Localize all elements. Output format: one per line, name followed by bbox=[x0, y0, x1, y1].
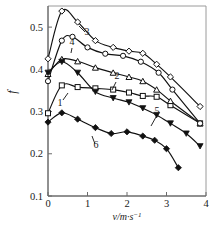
marker-series-1 bbox=[75, 85, 80, 90]
marker-series-1 bbox=[46, 111, 51, 116]
curve-label-3: 3 bbox=[85, 26, 90, 37]
leader-line-1 bbox=[63, 93, 68, 100]
marker-series-1 bbox=[154, 94, 159, 99]
marker-series-5 bbox=[126, 100, 132, 105]
marker-series-1 bbox=[140, 93, 145, 98]
marker-series-6 bbox=[140, 133, 146, 139]
y-tick-label: 0.3 bbox=[30, 106, 43, 117]
marker-series-5 bbox=[140, 106, 146, 111]
marker-series-3 bbox=[140, 50, 146, 56]
curve-label-1: 1 bbox=[58, 97, 63, 108]
y-tick-label: 0.2 bbox=[30, 148, 43, 159]
marker-series-4 bbox=[197, 121, 202, 126]
x-tick-label: 4 bbox=[203, 198, 209, 209]
chart-figure: 01234 0.10.20.30.40.5 123456 v/m·s−1 f bbox=[0, 0, 220, 236]
leader-line-4 bbox=[71, 48, 72, 53]
curve-label-2: 2 bbox=[115, 70, 120, 81]
x-axis-title: v/m·s−1 bbox=[112, 211, 141, 222]
x-axis-tick-labels: 01234 bbox=[45, 198, 209, 209]
leader-line-5 bbox=[151, 117, 156, 126]
y-axis-tick-labels: 0.10.20.30.40.5 bbox=[30, 22, 44, 202]
marker-series-3 bbox=[110, 44, 116, 50]
marker-series-4 bbox=[170, 87, 175, 92]
curve-label-5: 5 bbox=[155, 105, 160, 116]
curve-label-6: 6 bbox=[94, 139, 99, 150]
y-tick-label: 0.1 bbox=[30, 191, 43, 202]
marker-series-5 bbox=[167, 121, 173, 126]
marker-series-6 bbox=[175, 165, 181, 171]
x-axis-title-base: v/m·s bbox=[112, 211, 133, 222]
marker-series-6 bbox=[59, 110, 65, 116]
x-tick-label: 3 bbox=[164, 198, 169, 209]
marker-series-1 bbox=[59, 83, 64, 88]
marker-series-4 bbox=[120, 53, 125, 58]
curve-5 bbox=[48, 62, 200, 146]
marker-series-3 bbox=[126, 48, 132, 54]
data-markers bbox=[45, 8, 203, 171]
marker-series-4 bbox=[85, 45, 90, 50]
y-tick-label: 0.5 bbox=[30, 22, 43, 33]
marker-series-6 bbox=[152, 137, 158, 143]
marker-series-2 bbox=[140, 78, 146, 83]
marker-series-6 bbox=[124, 129, 130, 135]
marker-series-6 bbox=[75, 116, 81, 122]
x-axis-title-exponent: −1 bbox=[133, 211, 141, 219]
x-tick-label: 2 bbox=[124, 198, 129, 209]
y-axis-title: f bbox=[5, 89, 19, 94]
x-tick-label: 1 bbox=[85, 198, 90, 209]
marker-series-1 bbox=[126, 90, 131, 95]
x-tick-label: 0 bbox=[45, 198, 50, 209]
curve-label-4: 4 bbox=[70, 36, 75, 47]
data-curves bbox=[48, 9, 200, 167]
marker-series-4 bbox=[156, 70, 161, 75]
series-number-labels: 123456 bbox=[58, 26, 160, 150]
x-axis-ticks bbox=[48, 192, 206, 196]
marker-series-4 bbox=[103, 51, 108, 56]
marker-series-6 bbox=[92, 125, 98, 131]
curve-1 bbox=[48, 84, 200, 124]
marker-series-4 bbox=[59, 38, 64, 43]
curve-6 bbox=[48, 113, 178, 168]
curve-4 bbox=[48, 36, 200, 124]
marker-series-4 bbox=[138, 59, 143, 64]
marker-series-5 bbox=[197, 144, 203, 149]
curve-2 bbox=[48, 58, 200, 123]
marker-series-4 bbox=[45, 79, 50, 84]
marker-series-3 bbox=[45, 56, 51, 62]
y-tick-label: 0.4 bbox=[30, 64, 44, 75]
chart-plot-area: 01234 0.10.20.30.40.5 123456 v/m·s−1 f bbox=[0, 0, 220, 236]
marker-series-6 bbox=[108, 130, 114, 136]
marker-series-5 bbox=[92, 89, 98, 94]
